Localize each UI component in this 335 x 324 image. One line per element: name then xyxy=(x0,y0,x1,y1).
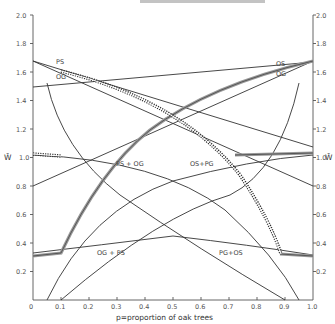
label-os: OS xyxy=(276,60,285,68)
y-tick-1.6: 1.6 xyxy=(16,69,26,77)
x-tick-0.2: 0.2 xyxy=(83,303,93,311)
x-tick-0.6: 0.6 xyxy=(195,303,205,311)
curve-ps-og xyxy=(47,83,285,300)
left-y-ticks: 2.0 1.8 1.6 1.4 1.2 1.0 0.8 0.6 0.4 0.2 … xyxy=(4,12,33,277)
y-tick-2.0: 2.0 xyxy=(16,12,26,20)
label-og-ps: OG + PS xyxy=(97,249,125,257)
label-os-pg: OS+PG xyxy=(190,160,214,168)
label-ps: PS xyxy=(56,58,64,66)
y-tick-0.4: 0.4 xyxy=(16,240,26,248)
y-tick-1.4: 1.4 xyxy=(16,97,26,105)
y-right-tick-0.4: 0.4 xyxy=(316,240,326,248)
right-y-ticks: 2.0 1.8 1.6 1.4 1.2 1.0 0.8 0.6 0.4 0.2 … xyxy=(313,12,333,277)
y-right-tick-2.0: 2.0 xyxy=(316,12,326,20)
y-right-tick-0.8: 0.8 xyxy=(316,183,326,191)
fitness-chart: 2.0 1.8 1.6 1.4 1.2 1.0 0.8 0.6 0.4 0.2 … xyxy=(0,0,335,324)
x-tick-0.8: 0.8 xyxy=(251,303,261,311)
y-tick-1.8: 1.8 xyxy=(16,40,26,48)
y-tick-0.6: 0.6 xyxy=(16,211,26,219)
unstable-curve xyxy=(33,71,281,254)
x-axis-title: p=proportion of oak trees xyxy=(116,313,213,322)
curve-og-ps xyxy=(33,236,313,255)
y-tick-1.2: 1.2 xyxy=(16,126,26,134)
x-ticks: 0 0.1 0.2 0.3 0.4 0.5 0.6 0.7 0.8 0.9 1.… xyxy=(29,297,317,322)
y-tick-0.8: 0.8 xyxy=(16,183,26,191)
label-og-left: OG xyxy=(56,73,66,81)
x-tick-0: 0 xyxy=(29,303,33,311)
w-bar-left-label: W̄ xyxy=(4,153,12,162)
x-tick-0.5: 0.5 xyxy=(167,303,177,311)
y-tick-1.0: 1.0 xyxy=(19,154,29,162)
label-pg-os: PG+OS xyxy=(219,249,243,257)
y-tick-0.2: 0.2 xyxy=(16,268,26,276)
x-tick-0.3: 0.3 xyxy=(111,303,121,311)
straight-lines xyxy=(33,61,313,186)
y-right-tick-1.6: 1.6 xyxy=(316,69,326,77)
w-bar-right-label: W̄ xyxy=(325,153,333,162)
y-right-tick-0.6: 0.6 xyxy=(316,211,326,219)
title-cutoff xyxy=(140,0,265,3)
x-tick-1.0: 1.0 xyxy=(307,303,317,311)
x-tick-0.7: 0.7 xyxy=(223,303,233,311)
label-ps-og: PS + OG xyxy=(116,160,144,168)
label-og-right: OG xyxy=(276,70,286,78)
y-right-tick-1.4: 1.4 xyxy=(316,97,326,105)
y-right-tick-1.2: 1.2 xyxy=(316,126,326,134)
line-ps xyxy=(33,61,313,147)
y-right-tick-1.8: 1.8 xyxy=(316,40,326,48)
x-tick-0.1: 0.1 xyxy=(55,303,65,311)
x-tick-0.4: 0.4 xyxy=(139,303,149,311)
y-right-tick-0.2: 0.2 xyxy=(316,268,326,276)
x-tick-0.9: 0.9 xyxy=(279,303,289,311)
